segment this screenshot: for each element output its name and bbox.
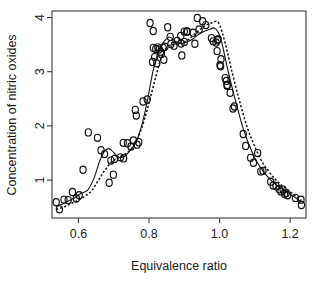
x-tick-label: 0.6: [70, 227, 87, 241]
data-point: [140, 98, 146, 105]
data-point: [80, 166, 86, 173]
scatter-plot-canvas: 0.60.81.01.2 1234 Equivalence ratio Conc…: [0, 0, 319, 282]
y-axis-ticks: 1234: [33, 14, 52, 184]
data-point: [106, 179, 112, 186]
x-axis-label: Equivalence ratio: [131, 259, 227, 273]
data-point: [69, 188, 75, 195]
x-tick-label: 1.0: [211, 227, 228, 241]
data-point: [243, 142, 249, 149]
data-point: [179, 52, 185, 59]
y-tick-label: 3: [33, 68, 47, 75]
x-tick-label: 0.8: [140, 227, 157, 241]
y-tick-label: 4: [33, 14, 47, 21]
fitted-curves: [56, 21, 301, 209]
data-point: [194, 14, 200, 21]
data-point: [53, 199, 59, 206]
data-point: [192, 40, 198, 47]
data-point: [147, 19, 153, 26]
data-point: [298, 201, 304, 208]
data-point: [230, 105, 236, 112]
data-point: [110, 171, 116, 178]
y-tick-label: 2: [33, 122, 47, 129]
data-point: [150, 27, 156, 34]
data-point: [196, 26, 202, 33]
x-axis-ticks: 0.60.81.01.2: [70, 218, 299, 241]
data-point: [227, 89, 233, 96]
x-tick-label: 1.2: [281, 227, 298, 241]
y-tick-label: 1: [33, 177, 47, 184]
data-point: [165, 24, 171, 31]
data-point: [214, 48, 220, 55]
data-point: [178, 32, 184, 39]
data-point: [61, 196, 67, 203]
chart-figure: 0.60.81.01.2 1234 Equivalence ratio Conc…: [0, 0, 319, 282]
data-point: [94, 134, 100, 141]
data-point: [85, 129, 91, 136]
y-axis-label: Concentration of nitric oxides: [5, 34, 19, 195]
data-points: [53, 14, 304, 212]
